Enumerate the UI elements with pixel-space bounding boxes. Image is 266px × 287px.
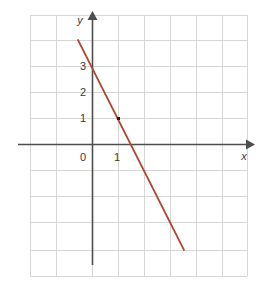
origin-label: 0	[80, 151, 86, 163]
x-tick-label-1: 1	[114, 151, 120, 163]
x-axis	[18, 140, 255, 150]
data-point-marker	[117, 117, 120, 120]
y-tick-label-3: 3	[80, 60, 86, 72]
coordinate-plane-svg: 3 2 1 0 1 y x	[0, 0, 266, 287]
y-tick-label-2: 2	[80, 86, 86, 98]
graph-figure: 3 2 1 0 1 y x	[0, 0, 266, 287]
grid-lines	[30, 15, 248, 277]
y-tick-label-1: 1	[80, 112, 86, 124]
x-axis-arrow-icon	[246, 140, 255, 150]
x-axis-label: x	[240, 150, 247, 162]
y-axis	[88, 11, 98, 265]
